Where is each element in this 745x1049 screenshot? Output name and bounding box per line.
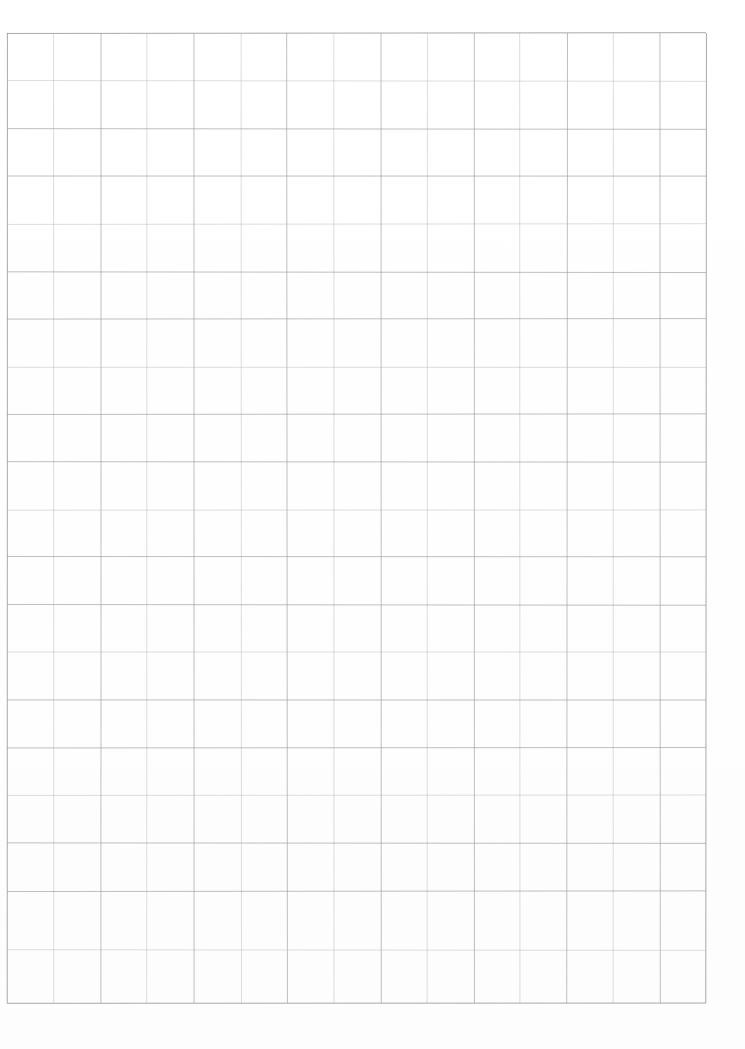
grid-line-vertical: [706, 33, 707, 1003]
grid-line-horizontal: [7, 224, 706, 225]
grid-vertical-lines: [7, 33, 706, 1003]
grid-line-horizontal: [7, 950, 706, 951]
grid-line-horizontal: [7, 414, 706, 415]
grid-area: [0, 0, 745, 1049]
grid-line-horizontal: [7, 129, 706, 130]
grid-line-horizontal: [7, 604, 706, 605]
document-page: Blank Grid Sheet: [0, 0, 745, 1049]
grid-horizontal-lines: [7, 33, 706, 1004]
grid-line-horizontal: [7, 319, 706, 320]
grid-line-vertical: [567, 33, 568, 1003]
grid-line-vertical: [287, 33, 288, 1003]
grid-lines-svg: [0, 0, 745, 1049]
grid-line-horizontal: [7, 272, 706, 273]
grid-line-horizontal: [7, 81, 706, 82]
grid-line-horizontal: [7, 33, 706, 34]
grid-line-horizontal: [7, 891, 706, 892]
